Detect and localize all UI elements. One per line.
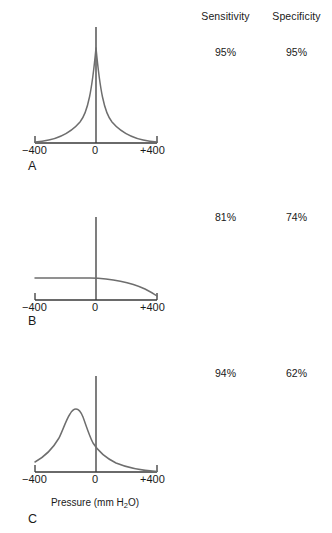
sensitivity-value-b: 81% [190, 211, 261, 223]
sensitivity-value-c: 94% [190, 367, 261, 379]
stats-row-a: 95% 95% [190, 46, 332, 58]
panel-letter-c: C [28, 512, 37, 526]
tick-label-a-right: +400 [140, 144, 165, 156]
stats-header-row: Sensitivity Specificity [190, 10, 332, 22]
tick-label-b-right: +400 [140, 301, 165, 313]
stats-row-c: 94% 62% [190, 367, 332, 379]
tick-label-c-right: +400 [140, 473, 165, 485]
tick-label-a-left: −400 [22, 144, 47, 156]
specificity-value-b: 74% [261, 211, 332, 223]
x-axis-title-sub: 2 [124, 501, 128, 510]
panel-c: −400 0 +400 [0, 372, 190, 482]
specificity-value-c: 62% [261, 367, 332, 379]
tick-label-b-left: −400 [22, 301, 47, 313]
sensitivity-header: Sensitivity [190, 10, 261, 22]
x-axis-title-main: Pressure (mm H [51, 497, 124, 508]
specificity-header: Specificity [261, 10, 332, 22]
tick-label-c-center: 0 [92, 473, 98, 485]
specificity-value-a: 95% [261, 46, 332, 58]
sensitivity-value-a: 95% [190, 46, 261, 58]
panel-letter-a: A [28, 159, 36, 173]
tympanometry-figure: Sensitivity Specificity 95% 95% 81% 74% … [0, 0, 332, 533]
panel-a: −400 0 +400 [0, 18, 190, 148]
tick-label-b-center: 0 [92, 301, 98, 313]
stats-row-b: 81% 74% [190, 211, 332, 223]
tick-label-a-center: 0 [92, 144, 98, 156]
panel-letter-b: B [28, 314, 36, 328]
x-axis-title-tail: O) [128, 497, 139, 508]
tick-label-c-left: −400 [22, 473, 47, 485]
panel-b: −400 0 +400 [0, 215, 190, 305]
x-axis-title: Pressure (mm H2O) [0, 497, 190, 508]
